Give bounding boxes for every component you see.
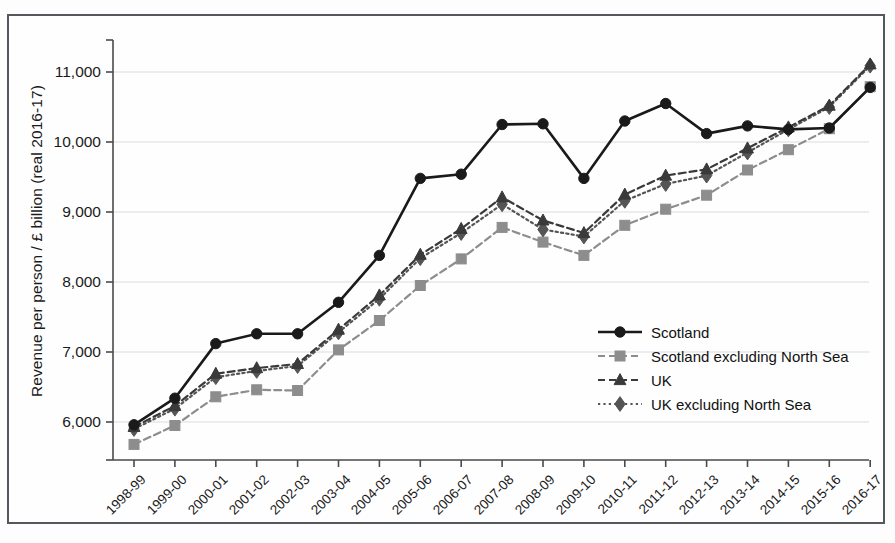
legend-label: Scotland [651,324,709,341]
marker-triangle [701,163,713,174]
legend-item-uk-excluding-north-sea[interactable]: UK excluding North Sea [596,392,849,416]
marker-circle [415,173,425,183]
legend-label: UK excluding North Sea [651,396,811,413]
legend-key-icon [596,370,644,390]
legend-item-scotland[interactable]: Scotland [596,320,849,344]
marker-circle [292,329,302,339]
marker-square [252,385,262,395]
marker-square [456,254,466,264]
legend-item-scotland-excluding-north-sea[interactable]: Scotland excluding North Sea [596,344,849,368]
legend-key-icon [596,394,644,414]
legend-label: Scotland excluding North Sea [651,348,849,365]
y-axis-tick-label: 11,000 [21,63,101,81]
marker-circle [620,116,630,126]
marker-circle [742,121,752,131]
marker-triangle [496,191,508,202]
marker-triangle [537,214,549,225]
marker-circle [129,420,139,430]
marker-square [211,392,221,402]
y-axis-tick-label: 8,000 [21,273,101,291]
marker-square [374,316,384,326]
y-axis-title: Revenue per person / £ billion (real 201… [28,41,46,441]
y-axis-tick-label: 9,000 [21,203,101,221]
marker-triangle [455,222,467,233]
marker-circle [865,82,875,92]
marker-circle [579,173,589,183]
marker-circle [538,119,548,129]
chart-page: Revenue per person / £ billion (real 201… [0,0,895,543]
marker-circle [497,119,507,129]
marker-square [497,222,507,232]
marker-circle [783,124,793,134]
legend-label: UK [651,372,672,389]
chart-legend: ScotlandScotland excluding North SeaUKUK… [596,320,849,416]
marker-square [415,281,425,291]
marker-square [538,237,548,247]
y-axis-tick-label: 7,000 [21,343,101,361]
marker-circle [701,128,711,138]
legend-item-uk[interactable]: UK [596,368,849,392]
marker-square [743,165,753,175]
marker-circle [211,338,221,348]
marker-square [783,145,793,155]
marker-square [702,190,712,200]
marker-square [129,439,139,449]
line-chart-plot [0,0,895,543]
y-axis-tick-label: 6,000 [21,413,101,431]
marker-square [579,250,589,260]
marker-square [620,220,630,230]
marker-diamond [615,397,625,412]
marker-square [170,421,180,431]
marker-circle [252,329,262,339]
marker-square [334,345,344,355]
marker-circle [456,169,466,179]
marker-square [615,351,625,361]
y-axis-tick-label: 10,000 [21,133,101,151]
marker-square [661,204,671,214]
marker-circle [333,297,343,307]
marker-circle [374,250,384,260]
marker-triangle [414,248,426,259]
marker-circle [170,393,180,403]
legend-key-icon [596,346,644,366]
marker-circle [615,327,625,337]
marker-circle [824,123,834,133]
legend-key-icon [596,322,644,342]
marker-square [293,386,303,396]
marker-circle [661,98,671,108]
